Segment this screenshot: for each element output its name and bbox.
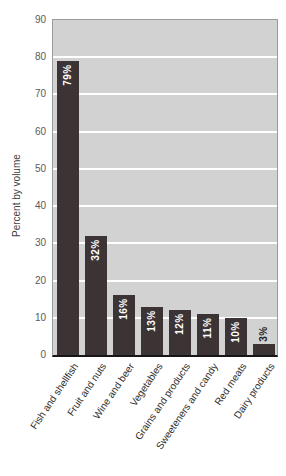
bar: 3%	[253, 344, 275, 355]
plot-area: 79%32%16%13%12%11%10%3%	[52, 19, 278, 357]
bar-value-label: 10%	[231, 321, 241, 343]
y-tick-label: 70	[0, 88, 46, 100]
y-tick-label: 80	[0, 51, 46, 63]
bar-value-label: 3%	[259, 323, 269, 345]
gridline	[53, 56, 277, 58]
gridline	[53, 93, 277, 95]
bar-value-label: 16%	[119, 298, 129, 320]
y-tick-label: 30	[0, 237, 46, 249]
gridline	[53, 205, 277, 207]
bar-value-label: 11%	[203, 317, 213, 339]
bar: 13%	[141, 307, 163, 355]
gridline	[53, 168, 277, 170]
bar-value-label: 12%	[175, 313, 185, 335]
y-tick-label: 50	[0, 163, 46, 175]
bar: 11%	[197, 314, 219, 355]
y-tick-label: 20	[0, 275, 46, 287]
bar: 16%	[113, 295, 135, 355]
gridline	[53, 131, 277, 133]
x-category-label: Fish and shellfish	[28, 361, 80, 431]
y-tick-label: 60	[0, 126, 46, 138]
y-tick-label: 0	[0, 349, 46, 361]
bar-value-label: 32%	[91, 239, 101, 261]
bar: 12%	[169, 310, 191, 355]
bar-chart-figure: Percent by volume 9080706050403020100 79…	[0, 0, 286, 476]
y-tick-label: 90	[0, 14, 46, 26]
y-tick-label: 10	[0, 312, 46, 324]
bar-value-label: 79%	[63, 64, 73, 86]
bar-value-label: 13%	[147, 310, 157, 332]
bar: 79%	[57, 61, 79, 355]
y-tick-label: 40	[0, 200, 46, 212]
bar: 10%	[225, 318, 247, 355]
bar: 32%	[85, 236, 107, 355]
